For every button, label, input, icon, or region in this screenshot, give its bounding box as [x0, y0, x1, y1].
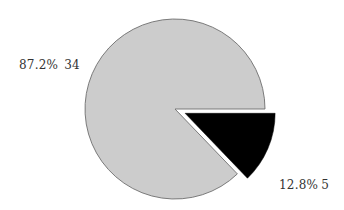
data-label-percent: 87.2%: [19, 58, 58, 72]
data-label-percent: 12.8%: [279, 178, 318, 192]
data-label-value: 34: [64, 58, 80, 72]
pie-chart: 87.2%34 12.8%5: [0, 0, 344, 210]
data-label-small-slice: 12.8%5: [279, 178, 329, 192]
pie-slice-large: [85, 19, 265, 199]
data-label-value: 5: [321, 178, 329, 192]
data-label-large-slice: 87.2%34: [19, 58, 80, 72]
